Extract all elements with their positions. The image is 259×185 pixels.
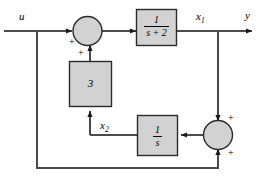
wire-input-feedback-to-summer2 (37, 31, 218, 168)
lag-denominator: s + 2 (144, 27, 169, 38)
block-diagram-graphics (0, 0, 259, 185)
integrator-denominator: s (153, 137, 162, 148)
block-label-integrator: 1 s (137, 124, 178, 149)
sign-summer2-top: + (228, 113, 234, 123)
signal-label-y: y (245, 10, 250, 21)
sign-summer1-left: + (69, 37, 75, 47)
signal-label-x2: x2 (100, 120, 109, 134)
signal-label-u: u (19, 11, 25, 22)
lag-numerator: 1 (144, 14, 169, 25)
signal-label-x2-sub: 2 (105, 125, 109, 134)
summer-feedback (204, 121, 233, 150)
block-label-first-order-lag: 1 s + 2 (136, 14, 177, 39)
sign-summer2-bottom: + (228, 148, 234, 158)
sign-summer1-bottom: + (78, 48, 84, 58)
signal-label-x1: x1 (196, 11, 205, 25)
block-diagram-canvas: 1 s + 2 3 1 s u x1 y x2 + + + + (0, 0, 259, 185)
block-label-gain: 3 (69, 78, 112, 89)
summer-input (73, 17, 102, 46)
signal-label-x1-sub: 1 (201, 16, 205, 25)
integrator-numerator: 1 (153, 124, 162, 135)
